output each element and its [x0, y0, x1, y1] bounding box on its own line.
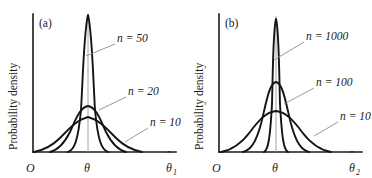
- panel-a: Probability density (a) n = 50 n = 20 n …: [0, 0, 186, 178]
- panel-b-xaxis-theta: θ: [349, 161, 355, 175]
- panel-b-ylabel: Probability density: [193, 63, 206, 150]
- panel-a-xaxis-subscript: 1: [173, 168, 177, 177]
- panel-a-theta-label: θ: [84, 161, 90, 175]
- panel-b-origin-label: O: [212, 161, 221, 175]
- panel-a-label-n20: n = 20: [128, 85, 159, 97]
- panel-b-tag: (b): [225, 17, 239, 30]
- panel-b-plot: Probability density (b) n = 1000 n = 100…: [186, 0, 372, 178]
- panel-b-leader-n10: [314, 122, 338, 136]
- panel-a-xaxis-label: ˆ θ 1: [166, 149, 177, 177]
- panel-a-leader-n20: [99, 97, 126, 110]
- panel-b-leader-n100: [284, 88, 314, 104]
- panel-b-label-n10: n = 10: [340, 110, 371, 122]
- panel-a-leader-n10: [125, 128, 148, 142]
- panel-a-tag: (a): [39, 17, 52, 30]
- panel-a-plot: Probability density (a) n = 50 n = 20 n …: [0, 0, 186, 178]
- panel-a-label-n10: n = 10: [150, 116, 181, 128]
- panel-b: Probability density (b) n = 1000 n = 100…: [186, 0, 372, 178]
- panel-b-label-n1000: n = 1000: [306, 30, 349, 42]
- panel-a-ylabel: Probability density: [7, 63, 20, 150]
- panel-a-leader-n50: [86, 44, 115, 56]
- panel-a-xaxis-theta: θ: [166, 161, 172, 175]
- panel-a-label-n50: n = 50: [117, 32, 148, 44]
- panel-b-xaxis-subscript: 2: [356, 168, 360, 177]
- panel-b-xaxis-label: ˆ θ 2: [349, 149, 360, 177]
- panel-b-theta-label: θ: [272, 161, 278, 175]
- panel-b-label-n100: n = 100: [316, 76, 353, 88]
- figure-container: Probability density (a) n = 50 n = 20 n …: [0, 0, 372, 178]
- panel-a-origin-label: O: [26, 161, 35, 175]
